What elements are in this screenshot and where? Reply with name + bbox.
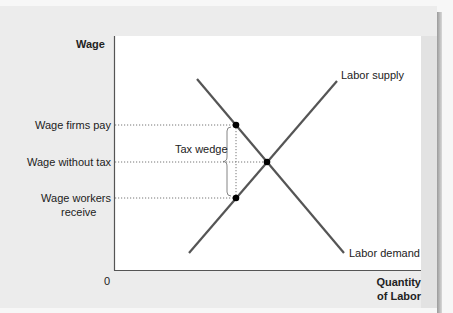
label-labor-demand: Labor demand [349,247,420,259]
point-firms-pay [233,122,240,129]
label-wage-firms-pay: Wage firms pay [35,119,111,131]
labor-demand-curve [197,79,344,253]
labor-supply-curve [189,81,337,253]
label-wage-workers-receive-line1: Wage workers [41,192,111,204]
label-labor-supply: Labor supply [341,69,404,81]
point-equilibrium [264,159,271,166]
origin-label: 0 [104,275,110,287]
label-wage-without-tax: Wage without tax [27,156,111,168]
label-tax-wedge: Tax wedge [175,143,228,155]
x-axis-label-line1: Quantity [376,276,421,288]
y-axis-label: Wage [76,38,105,50]
label-wage-workers-receive-line2: receive [61,206,96,218]
x-axis-label-line2: of Labor [377,290,421,302]
point-workers-receive [233,195,240,202]
